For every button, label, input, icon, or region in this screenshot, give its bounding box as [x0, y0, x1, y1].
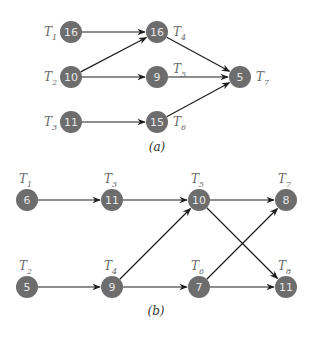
node-label: T6 — [191, 259, 204, 276]
node-label: T7 — [256, 70, 270, 87]
node-t5: 9T5 — [146, 62, 186, 88]
task-graph-canvas: 16T110T211T316T49T515T65T7 (a) 6T15T211T… — [0, 0, 310, 338]
node-label: T2 — [44, 70, 57, 87]
node-label: T3 — [44, 115, 57, 132]
nodes-a: 16T110T211T316T49T515T65T7 — [44, 21, 270, 133]
node-t3: 11T3 — [101, 172, 123, 211]
node-value: 11 — [105, 194, 119, 207]
diagram-b: 6T15T211T39T410T57T68T711T8 (b) — [16, 172, 297, 318]
node-t7: 8T7 — [275, 172, 297, 211]
nodes-b: 6T15T211T39T410T57T68T711T8 — [16, 172, 297, 298]
node-label: T4 — [173, 25, 186, 42]
node-value: 9 — [109, 281, 116, 294]
node-value: 16 — [150, 26, 164, 39]
node-value: 8 — [283, 194, 290, 207]
node-value: 5 — [24, 281, 31, 294]
node-value: 5 — [237, 71, 244, 84]
node-t2: 10T2 — [44, 66, 82, 88]
node-value: 7 — [196, 281, 203, 294]
node-label: T3 — [104, 172, 117, 189]
node-label: T8 — [278, 259, 291, 276]
node-t3: 11T3 — [44, 111, 82, 133]
node-t8: 11T8 — [275, 259, 297, 298]
node-label: T2 — [19, 259, 32, 276]
node-label: T1 — [44, 25, 57, 42]
node-label: T6 — [173, 115, 186, 132]
node-label: T5 — [191, 172, 204, 189]
node-t6: 15T6 — [146, 111, 186, 133]
edges-b — [38, 200, 278, 287]
node-t4: 16T4 — [146, 21, 186, 43]
caption-b: (b) — [147, 304, 164, 318]
diagram-a: 16T110T211T316T49T515T65T7 (a) — [44, 21, 270, 154]
node-value: 6 — [24, 194, 31, 207]
node-value: 10 — [192, 194, 206, 207]
node-value: 16 — [64, 26, 78, 39]
node-t1: 6T1 — [16, 172, 38, 211]
edge-t4-t5 — [120, 208, 191, 279]
node-value: 15 — [150, 116, 164, 129]
caption-a: (a) — [149, 140, 166, 154]
edge-t2-t4 — [81, 38, 147, 72]
edge-t6-t7 — [167, 83, 230, 117]
node-t2: 5T2 — [16, 259, 38, 298]
node-value: 11 — [64, 116, 78, 129]
node-label: T1 — [19, 172, 32, 189]
node-value: 10 — [64, 71, 78, 84]
node-value: 9 — [154, 71, 161, 84]
node-t5: 10T5 — [188, 172, 210, 211]
node-value: 11 — [279, 281, 293, 294]
node-t7: 5T7 — [229, 66, 270, 88]
node-t1: 16T1 — [44, 21, 82, 43]
node-label: T7 — [278, 172, 292, 189]
node-label: T4 — [104, 259, 117, 276]
